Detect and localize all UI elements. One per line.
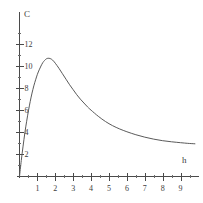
x-tick-label: 9: [179, 184, 183, 193]
concentration-curve: [20, 58, 195, 176]
plot-canvas: 123456789 24681012 C h: [0, 0, 203, 203]
x-tick-label: 4: [89, 184, 93, 193]
axes-group: [17, 12, 199, 178]
y-axis-title: C: [24, 9, 30, 19]
y-tick-label: 6: [25, 106, 29, 115]
x-tick-label: 2: [53, 184, 57, 193]
x-axis-tick-labels: 123456789: [35, 184, 182, 193]
y-tick-label: 12: [25, 40, 33, 49]
x-tick-label: 3: [71, 184, 75, 193]
y-tick-label: 10: [25, 62, 33, 71]
y-tick-label: 4: [25, 128, 29, 137]
x-axis-title: h: [182, 155, 187, 165]
y-axis-tick-labels: 24681012: [25, 40, 33, 159]
x-tick-label: 7: [143, 184, 147, 193]
concentration-plot: 123456789 24681012 C h: [0, 0, 203, 203]
x-tick-label: 5: [107, 184, 111, 193]
x-tick-label: 8: [161, 184, 165, 193]
x-tick-label: 6: [125, 184, 129, 193]
y-tick-label: 2: [25, 150, 29, 159]
y-tick-label: 8: [25, 84, 29, 93]
x-tick-label: 1: [35, 184, 39, 193]
